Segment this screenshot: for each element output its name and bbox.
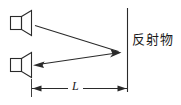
transmitter-speaker-icon [11,11,32,36]
reflector-label: 反射物 [132,33,174,46]
distance-label: L [72,80,79,92]
dimension-arrowhead-right [118,86,127,92]
outgoing-ray-line [35,26,119,52]
returning-ray-line [38,53,120,65]
receiver-speaker-icon [11,53,32,78]
diagram-canvas [0,0,181,105]
dimension-arrowhead-left [33,86,42,92]
returning-ray-arrowhead [33,62,45,68]
reflection-diagram: 反射物 L [0,0,181,105]
